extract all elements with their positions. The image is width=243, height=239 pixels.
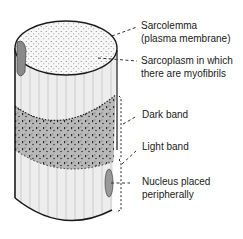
label-light-band: Light band bbox=[142, 141, 189, 153]
sarcoplasm-top-face bbox=[15, 21, 117, 75]
label-sarcoplasm: Sarcoplasm in which bbox=[141, 55, 233, 67]
dark-band-leader bbox=[123, 116, 137, 124]
label-sarcoplasm-sub: there are myofibrils bbox=[141, 68, 226, 80]
nucleus-left bbox=[17, 41, 26, 76]
label-sarcolemma: Sarcolemma bbox=[141, 20, 197, 32]
label-sarcolemma-sub: (plasma membrane) bbox=[141, 33, 230, 45]
sarcolemma-leader bbox=[112, 27, 137, 36]
label-nucleus-sub: peripherally bbox=[142, 189, 194, 201]
label-nucleus: Nucleus placed bbox=[142, 176, 210, 188]
muscle-fibre-diagram: Sarcolemma (plasma membrane) Sarcoplasm … bbox=[0, 0, 243, 239]
light-band-leader bbox=[122, 151, 136, 164]
label-dark-band: Dark band bbox=[142, 109, 188, 121]
